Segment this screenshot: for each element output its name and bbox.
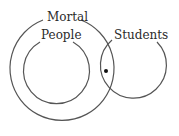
people-circle [24, 42, 90, 104]
mortal-label: Mortal [47, 10, 88, 24]
people-label: People [41, 28, 81, 42]
element-dot [104, 69, 108, 73]
euler-diagram: Mortal People Students [0, 0, 179, 136]
students-label: Students [114, 28, 168, 42]
